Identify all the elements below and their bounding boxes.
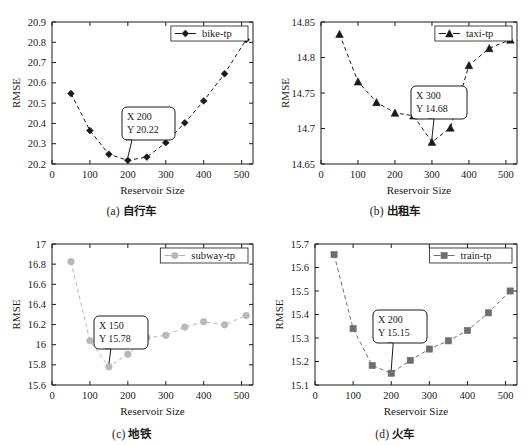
caption-index-c: (c) bbox=[112, 428, 125, 440]
data-point bbox=[200, 98, 207, 105]
data-point bbox=[354, 78, 362, 85]
annotation-pointer bbox=[126, 140, 132, 157]
x-tick-label: 500 bbox=[498, 169, 514, 180]
data-point bbox=[485, 44, 493, 51]
x-tick-label: 0 bbox=[318, 169, 323, 180]
subplot-caption-b: (b)出租车 bbox=[263, 202, 527, 218]
plot-canvas-c: 010020030040050015.615.81616.216.416.616… bbox=[0, 222, 263, 445]
series-line bbox=[71, 262, 246, 367]
y-tick-label: 15.1 bbox=[291, 380, 309, 391]
x-tick-label: 0 bbox=[49, 169, 54, 180]
y-tick-label: 20.5 bbox=[28, 98, 46, 109]
annotation-x-label: X 200 bbox=[378, 314, 403, 325]
data-point bbox=[465, 62, 473, 69]
y-tick-label: 20.8 bbox=[28, 37, 46, 48]
caption-label-a: 自行车 bbox=[123, 205, 157, 217]
data-point bbox=[445, 338, 451, 344]
x-tick-label: 200 bbox=[387, 169, 403, 180]
legend-label: train-tp bbox=[461, 250, 492, 261]
y-axis-title: RMSE bbox=[273, 299, 285, 329]
x-tick-label: 0 bbox=[312, 390, 317, 401]
y-tick-label: 20.9 bbox=[28, 17, 46, 28]
x-tick-label: 300 bbox=[421, 390, 437, 401]
data-point bbox=[221, 322, 228, 329]
y-tick-label: 15.5 bbox=[291, 286, 309, 297]
legend-label: bike-tp bbox=[202, 28, 232, 39]
legend-c[interactable]: subway-tp bbox=[160, 248, 248, 263]
x-tick-label: 400 bbox=[196, 169, 212, 180]
x-axis-title: Reservoir Size bbox=[120, 184, 185, 196]
y-tick-label: 14.65 bbox=[291, 159, 315, 170]
figure-container: 010020030040050020.220.320.420.520.620.7… bbox=[0, 0, 527, 445]
y-tick-label: 16 bbox=[36, 339, 47, 350]
y-tick-label: 14.8 bbox=[297, 52, 315, 63]
caption-label-c: 地铁 bbox=[128, 428, 150, 440]
legend-d[interactable]: train-tp bbox=[430, 248, 512, 263]
subplot-d: 010020030040050015.115.215.315.415.515.6… bbox=[263, 222, 527, 445]
y-tick-label: 14.7 bbox=[297, 123, 315, 134]
annotation-y-label: Y 14.68 bbox=[416, 103, 448, 114]
data-point bbox=[125, 351, 132, 358]
y-tick-label: 14.85 bbox=[291, 17, 315, 28]
data-point bbox=[485, 310, 491, 316]
x-tick-label: 500 bbox=[498, 390, 514, 401]
data-point bbox=[181, 119, 188, 126]
plot-canvas-b: 010020030040050014.6514.714.7514.814.85R… bbox=[263, 0, 527, 222]
legend-label: taxi-tp bbox=[466, 28, 493, 39]
legend-a[interactable]: bike-tp bbox=[171, 26, 248, 41]
data-point bbox=[181, 324, 188, 331]
series-bike-tp bbox=[68, 36, 250, 163]
y-axis-title: RMSE bbox=[279, 78, 291, 108]
data-point bbox=[68, 258, 75, 265]
legend-b[interactable]: taxi-tp bbox=[435, 26, 512, 41]
y-axis-title: RMSE bbox=[10, 78, 22, 108]
y-tick-label: 20.7 bbox=[28, 57, 46, 68]
data-point bbox=[447, 124, 455, 131]
data-point bbox=[331, 251, 337, 257]
y-tick-label: 20.3 bbox=[28, 138, 46, 149]
x-axis-title: Reservoir Size bbox=[387, 184, 452, 196]
y-tick-label: 15.8 bbox=[28, 359, 46, 370]
annotation-callout: X 200Y 15.15 bbox=[373, 310, 427, 370]
data-point bbox=[221, 70, 228, 77]
subplot-c: 010020030040050015.615.81616.216.416.616… bbox=[0, 222, 263, 445]
x-tick-label: 200 bbox=[383, 390, 399, 401]
y-axis-title: RMSE bbox=[10, 299, 22, 329]
x-tick-label: 400 bbox=[196, 390, 212, 401]
x-tick-label: 300 bbox=[158, 169, 174, 180]
annotation-pointer bbox=[428, 119, 434, 139]
data-point bbox=[391, 109, 399, 116]
data-point bbox=[388, 370, 394, 376]
annotation-callout: X 200Y 20.22 bbox=[122, 107, 175, 157]
y-tick-label: 15.3 bbox=[291, 333, 309, 344]
data-point bbox=[507, 288, 513, 294]
annotation-pointer bbox=[387, 343, 393, 370]
subplot-caption-a: (a)自行车 bbox=[0, 202, 263, 218]
series-subway-tp bbox=[68, 258, 250, 370]
y-tick-label: 15.7 bbox=[291, 239, 309, 250]
y-tick-label: 17 bbox=[36, 239, 47, 250]
data-point bbox=[200, 318, 207, 325]
data-point bbox=[243, 312, 250, 319]
subplot-b: 010020030040050014.6514.714.7514.814.85R… bbox=[263, 0, 527, 222]
data-point bbox=[407, 357, 413, 363]
series-line bbox=[71, 40, 246, 161]
x-tick-label: 500 bbox=[234, 169, 250, 180]
data-point bbox=[369, 362, 375, 368]
y-tick-label: 16.2 bbox=[28, 319, 46, 330]
x-tick-label: 400 bbox=[461, 169, 477, 180]
x-tick-label: 200 bbox=[120, 169, 136, 180]
y-tick-label: 15.2 bbox=[291, 356, 309, 367]
data-point bbox=[426, 346, 432, 352]
data-point bbox=[105, 151, 112, 158]
y-tick-label: 15.6 bbox=[28, 380, 46, 391]
caption-label-d: 火车 bbox=[392, 428, 414, 440]
y-tick-label: 20.6 bbox=[28, 77, 46, 88]
caption-index-a: (a) bbox=[107, 205, 120, 217]
data-point bbox=[87, 337, 94, 344]
data-point bbox=[106, 364, 113, 371]
x-tick-label: 100 bbox=[82, 169, 98, 180]
data-point bbox=[428, 138, 436, 145]
data-point bbox=[373, 98, 381, 105]
y-tick-label: 20.2 bbox=[28, 159, 46, 170]
